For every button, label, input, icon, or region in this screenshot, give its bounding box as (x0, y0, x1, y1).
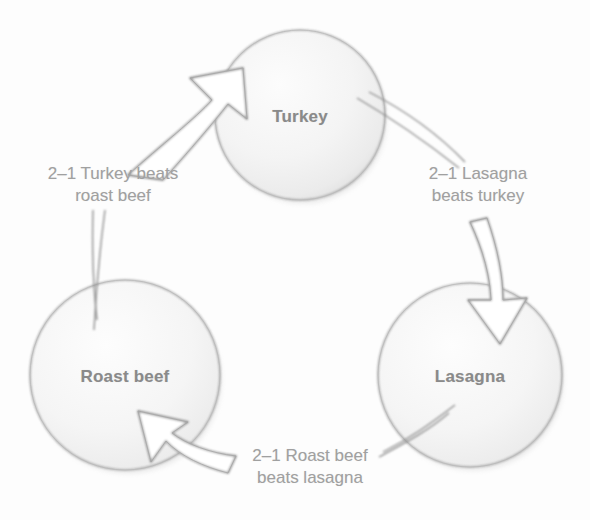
node-label-turkey: Turkey (272, 107, 328, 127)
node-label-roast-beef: Roast beef (81, 367, 170, 387)
edge-label-line2: beats lasagna (252, 467, 367, 489)
edge-label-lasagna-beats-turkey: 2–1 Lasagna beats turkey (429, 163, 527, 208)
edge-label-line2: beats turkey (429, 185, 527, 207)
edge-label-turkey-beats-roast-beef: 2–1 Turkey beats roast beef (48, 163, 178, 208)
edge-label-roast-beef-beats-lasagna: 2–1 Roast beef beats lasagna (252, 445, 367, 490)
node-label-lasagna: Lasagna (435, 367, 505, 387)
edge-label-line2: roast beef (48, 185, 178, 207)
cycle-diagram-graphic (0, 0, 590, 520)
edge-label-line1: 2–1 Turkey beats (48, 163, 178, 185)
diagram-canvas: Turkey Roast beef Lasagna 2–1 Turkey bea… (0, 0, 590, 520)
edge-label-line1: 2–1 Lasagna (429, 163, 527, 185)
edge-label-line1: 2–1 Roast beef (252, 445, 367, 467)
